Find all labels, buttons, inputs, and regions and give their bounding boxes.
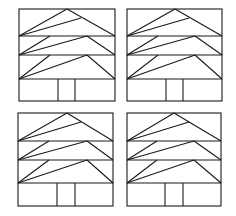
figure-panel-bottom-left	[18, 113, 113, 206]
roof-line	[127, 122, 189, 141]
branch-line	[127, 141, 194, 160]
roof-line	[67, 113, 113, 141]
branch-line	[127, 160, 157, 183]
branch-line	[127, 160, 194, 183]
figure-panel-top-left	[19, 9, 115, 101]
branch-line	[87, 55, 115, 79]
roof-line	[127, 9, 175, 36]
branch-line	[127, 141, 157, 160]
branch-line	[127, 55, 158, 79]
roof-line	[175, 9, 222, 36]
roof-line	[18, 122, 81, 141]
roof-line	[127, 18, 189, 36]
branch-line	[87, 141, 113, 160]
roof-line	[19, 9, 67, 36]
branch-line	[195, 36, 222, 55]
branch-line	[127, 36, 195, 55]
figure-panel-top-right	[127, 9, 222, 101]
branch-line	[19, 36, 87, 55]
branch-line	[18, 141, 87, 160]
branch-line	[19, 55, 87, 79]
diagram-canvas	[0, 0, 236, 216]
branch-line	[19, 55, 50, 79]
branch-line	[194, 141, 221, 160]
figure-panel-bottom-right	[127, 113, 221, 206]
branch-line	[87, 160, 113, 183]
branch-line	[18, 160, 87, 183]
branch-line	[18, 160, 49, 183]
branch-line	[18, 141, 49, 160]
branch-line	[195, 55, 222, 79]
roof-line	[127, 113, 174, 141]
roof-line	[18, 113, 67, 141]
branch-line	[127, 55, 195, 79]
branch-line	[194, 160, 221, 183]
branch-line	[127, 36, 158, 55]
roof-line	[67, 9, 115, 36]
branch-line	[87, 36, 115, 55]
roof-line	[174, 113, 221, 141]
branch-line	[19, 36, 50, 55]
roof-line	[19, 18, 81, 36]
tree-figures-diagram	[0, 0, 236, 216]
